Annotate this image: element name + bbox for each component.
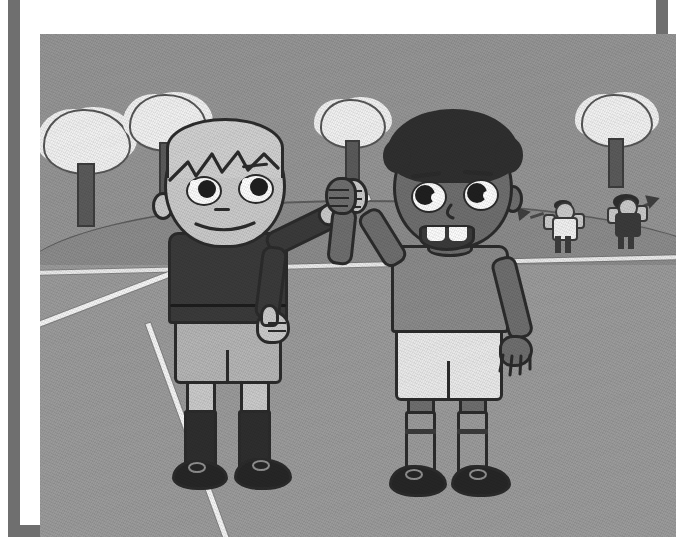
boy-right-hair-curl-left [383, 139, 411, 173]
boy-right-tooth-right [449, 227, 467, 241]
boy-left-mouth-icon [194, 220, 256, 238]
tree-left [43, 109, 133, 227]
boy-right-shorts-split [447, 361, 450, 401]
scene [40, 34, 676, 537]
boy-left-knuckle-2 [268, 330, 286, 332]
boy-left [142, 114, 392, 534]
boy-right-hand-high-five [325, 177, 357, 215]
boy-right-tooth-left [427, 227, 445, 241]
screenshot-root [0, 0, 678, 545]
picture-frame [8, 0, 668, 537]
high-five-clasp [329, 114, 381, 166]
boy-right-hair-curl-right [495, 137, 523, 173]
boy-right-finger-line-3 [330, 205, 348, 207]
boy-right-sock-band-r [457, 429, 488, 434]
frame-mat-top [8, 0, 668, 22]
boy-left-knuckle-1 [268, 322, 286, 324]
boy-right-nose-icon [439, 203, 465, 223]
boy-right-finger-line-2 [329, 197, 349, 199]
tree-trunk [77, 163, 95, 227]
boy-right-fingers-icon [497, 353, 541, 383]
boy-left-shorts-split [226, 350, 229, 384]
boy-right-shirt [391, 245, 509, 333]
illustration-canvas [40, 34, 676, 537]
boy-right [371, 99, 631, 529]
boy-right-sock-band-l [405, 429, 436, 434]
boy-right-finger-line-1 [329, 189, 349, 191]
